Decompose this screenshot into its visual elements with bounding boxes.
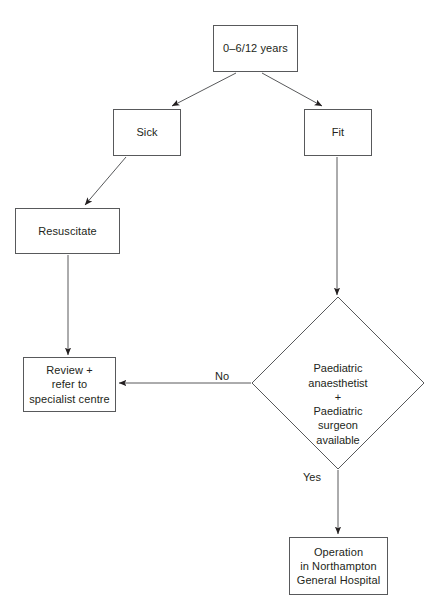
node-operation-label: Operation in Northampton General Hospita… bbox=[295, 545, 383, 588]
node-age-range-label: 0–6/12 years bbox=[221, 41, 290, 55]
node-operation: Operation in Northampton General Hospita… bbox=[289, 537, 388, 595]
node-age-range: 0–6/12 years bbox=[213, 25, 298, 72]
node-fit-label: Fit bbox=[330, 125, 347, 139]
node-sick: Sick bbox=[113, 109, 181, 156]
node-sick-label: Sick bbox=[134, 125, 159, 139]
edge-sick-to-resuscitate bbox=[85, 157, 126, 205]
node-resuscitate: Resuscitate bbox=[15, 208, 120, 254]
edge-label-no-text: No bbox=[215, 370, 229, 382]
node-decision-label-wrap: Paediatric anaesthetist + Paediatric sur… bbox=[282, 347, 394, 447]
edge-label-no: No bbox=[215, 370, 229, 382]
node-review-refer: Review + refer to specialist centre bbox=[23, 357, 116, 412]
node-review-refer-label: Review + refer to specialist centre bbox=[27, 363, 112, 406]
edge-age-to-sick bbox=[172, 73, 236, 106]
edge-label-yes-text: Yes bbox=[303, 471, 321, 483]
node-decision-label: Paediatric anaesthetist + Paediatric sur… bbox=[308, 362, 367, 445]
node-resuscitate-label: Resuscitate bbox=[36, 224, 99, 238]
edge-age-to-fit bbox=[262, 73, 322, 106]
flowchart-canvas bbox=[0, 0, 438, 605]
edge-label-yes: Yes bbox=[303, 471, 321, 483]
node-fit: Fit bbox=[304, 109, 372, 156]
